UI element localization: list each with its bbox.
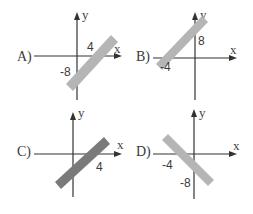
option-label: A): [17, 49, 32, 65]
y-axis-arrow-icon: [70, 112, 76, 120]
y-axis-arrow-icon: [192, 12, 198, 20]
option-c-graph[interactable]: C) y x 4: [0, 107, 126, 214]
option-d-graph[interactable]: D) y x -4 -8: [126, 107, 253, 214]
x-intercept-label: -4: [162, 158, 173, 172]
x-axis-label: x: [233, 138, 240, 153]
x-intercept-label: -4: [160, 60, 171, 74]
y-intercept-label: 8: [198, 34, 205, 48]
y-intercept-label: -8: [60, 65, 71, 79]
y-axis-label: y: [78, 107, 85, 120]
y-axis-label: y: [82, 7, 89, 22]
y-axis-arrow-icon: [74, 12, 80, 20]
x-axis-label: x: [117, 137, 124, 152]
option-b-graph[interactable]: B) y x 8 -4: [126, 0, 253, 107]
option-label: B): [136, 49, 150, 65]
option-a-graph[interactable]: A) y x 4 -8: [0, 0, 126, 107]
x-axis-label: x: [230, 42, 237, 57]
y-intercept-label: -8: [180, 176, 191, 190]
y-axis-arrow-icon: [191, 109, 197, 117]
option-label: C): [17, 144, 31, 160]
option-label: D): [136, 144, 151, 160]
x-intercept-label: 4: [87, 40, 94, 54]
y-axis-label: y: [199, 107, 206, 120]
x-intercept-label: 4: [96, 160, 103, 174]
